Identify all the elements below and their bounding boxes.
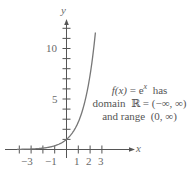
function-equals: = e xyxy=(127,84,144,96)
x-axis-arrow-icon xyxy=(129,147,135,152)
annotation-line-1: f(x) = ex has xyxy=(86,80,193,97)
y-tick-label-5: 5 xyxy=(52,94,58,105)
y-axis-label: y xyxy=(61,5,66,16)
x-tick-label-neg1: −1 xyxy=(45,156,57,167)
function-name: f(x) xyxy=(112,84,127,96)
x-tick-label-neg3: −3 xyxy=(21,156,33,167)
x-axis-label: x xyxy=(136,143,141,154)
x-tick-label-3: 3 xyxy=(98,156,104,167)
function-has: has xyxy=(147,84,167,96)
y-tick-label-10: 10 xyxy=(46,43,57,54)
function-annotation: f(x) = ex has domain ℝ = (−∞, ∞) and ran… xyxy=(86,80,193,123)
x-tick-label-2: 2 xyxy=(86,156,92,167)
x-tick-label-1: 1 xyxy=(74,156,80,167)
annotation-domain: domain ℝ = (−∞, ∞) xyxy=(86,97,193,110)
y-axis-arrow-icon xyxy=(64,19,69,25)
annotation-range: and range (0, ∞) xyxy=(86,110,193,123)
clipped-caption xyxy=(28,175,108,182)
